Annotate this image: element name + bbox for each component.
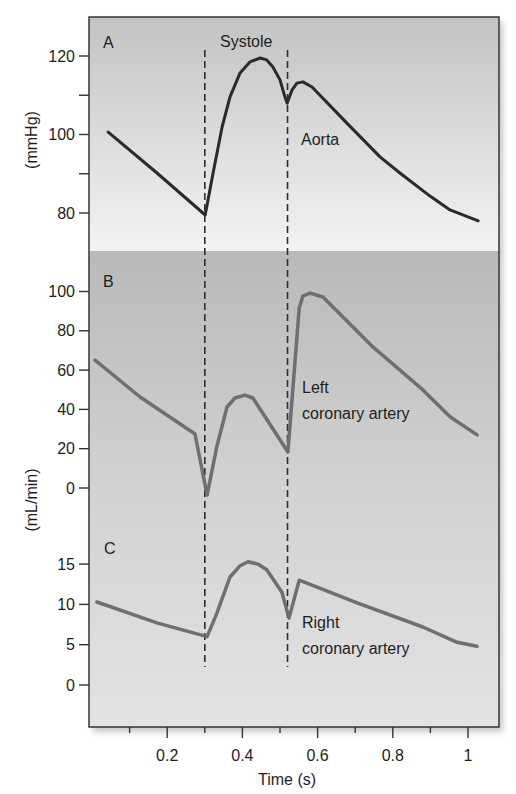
- panel-a-background: [89, 17, 499, 251]
- x-tick-label: 1: [464, 747, 473, 764]
- y-tick-label: 80: [57, 322, 75, 339]
- y-tick-label: 40: [57, 401, 75, 418]
- y-tick-label: 10: [57, 596, 75, 613]
- x-axis-title: Time (s): [258, 771, 316, 788]
- right-coronary-label-line1: Right: [302, 614, 340, 631]
- panel-label-a: A: [103, 34, 114, 51]
- y-tick-label: 100: [48, 126, 75, 143]
- y-axis-title-pressure: (mmHg): [23, 111, 40, 169]
- coronary-flow-figure: 80100120020406080100051015 0.20.40.60.81…: [0, 0, 516, 794]
- panel-label-b: B: [103, 273, 114, 290]
- y-axis-title-flow: (mL/min): [23, 468, 40, 531]
- x-tick-label: 0.8: [382, 747, 404, 764]
- x-tick-label: 0.2: [156, 747, 178, 764]
- x-tick-label: 0.4: [231, 747, 253, 764]
- chart-canvas: 80100120020406080100051015 0.20.40.60.81…: [0, 0, 516, 794]
- left-coronary-label-line2: coronary artery: [302, 405, 410, 422]
- y-tick-label: 5: [66, 636, 75, 653]
- aorta-label: Aorta: [301, 131, 339, 148]
- y-tick-label: 120: [48, 48, 75, 65]
- y-tick-label: 0: [66, 480, 75, 497]
- y-tick-label: 60: [57, 362, 75, 379]
- y-tick-label: 100: [48, 283, 75, 300]
- systole-label: Systole: [220, 33, 273, 50]
- right-coronary-label-line2: coronary artery: [302, 640, 410, 657]
- y-tick-label: 80: [57, 205, 75, 222]
- y-tick-label: 15: [57, 556, 75, 573]
- x-axis: 0.20.40.60.81: [130, 727, 473, 764]
- panel-label-c: C: [104, 540, 116, 557]
- left-coronary-label-line1: Left: [302, 379, 329, 396]
- y-axes: 80100120020406080100051015: [48, 48, 89, 694]
- panel-bc-background: [89, 251, 499, 727]
- y-tick-label: 20: [57, 440, 75, 457]
- y-tick-label: 0: [66, 677, 75, 694]
- x-tick-label: 0.6: [306, 747, 328, 764]
